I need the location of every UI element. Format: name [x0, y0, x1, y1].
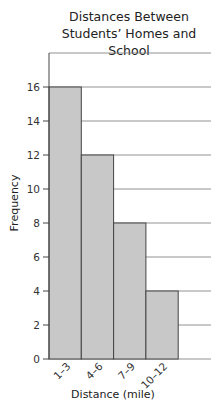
- x-tick-label: 4–6: [83, 360, 105, 382]
- x-tick-label: 1–3: [51, 360, 73, 382]
- histogram-plot: 02468101214161–34–67–910–12Distance (mil…: [0, 0, 218, 412]
- y-tick-label: 16: [27, 81, 41, 93]
- x-tick-label: 7–9: [116, 360, 138, 382]
- y-tick-label: 2: [33, 319, 40, 331]
- bar: [146, 291, 178, 359]
- bar: [114, 223, 146, 359]
- x-axis-label: Distance (mile): [71, 388, 155, 401]
- y-axis-label: Frequency: [8, 174, 21, 231]
- bar: [81, 155, 113, 359]
- x-tick-label: 10–12: [138, 360, 169, 391]
- y-tick-label: 12: [27, 149, 40, 161]
- y-tick-label: 0: [33, 353, 40, 365]
- bar: [49, 87, 81, 359]
- y-tick-label: 8: [33, 217, 40, 229]
- y-tick-label: 6: [33, 251, 40, 263]
- y-tick-label: 4: [33, 285, 40, 297]
- y-tick-label: 10: [27, 183, 40, 195]
- y-tick-label: 14: [27, 115, 41, 127]
